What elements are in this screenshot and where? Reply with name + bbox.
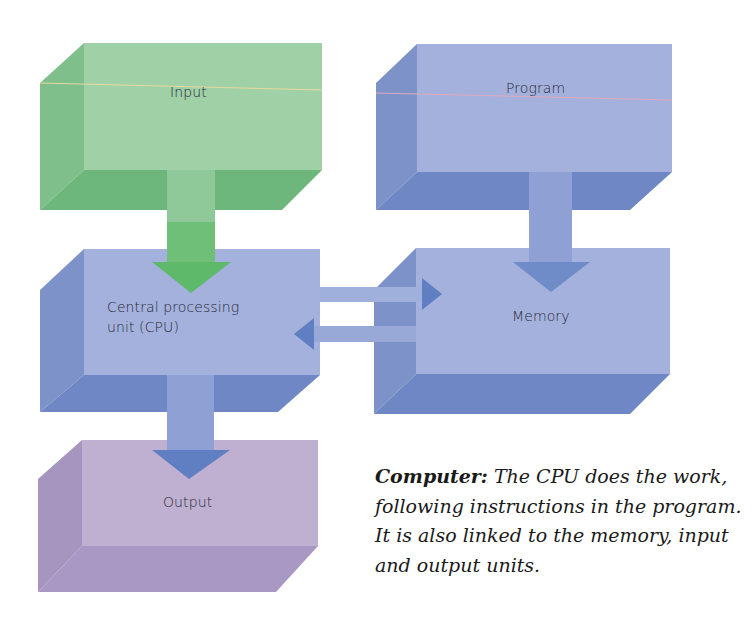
caption-heading: Computer: [375, 465, 488, 487]
output-label: Output [163, 494, 212, 510]
memory-box [374, 248, 670, 414]
program-box [376, 44, 672, 210]
cpu-label-line1: Central processing [107, 299, 239, 315]
memory-label: Memory [512, 308, 570, 324]
cpu-label-line2: unit (CPU) [107, 319, 179, 335]
input-label: Input [170, 84, 207, 100]
program-label: Program [506, 80, 565, 96]
figure-caption: Computer: The CPU does the work, followi… [375, 462, 752, 580]
